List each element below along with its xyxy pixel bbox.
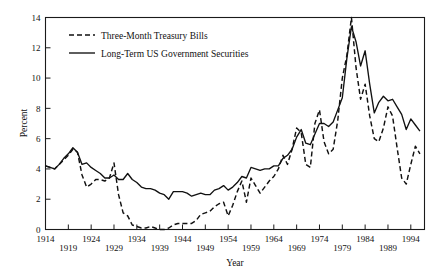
x-tick-label: 1959 [242,243,261,253]
x-tick-label: 1929 [105,243,124,253]
x-tick-label: 1989 [379,243,398,253]
x-axis-ticks [46,225,411,230]
x-tick-label: 1914 [37,234,56,244]
x-tick-label: 1984 [356,234,375,244]
y-axis-ticks [46,18,51,230]
y-tick-label: 10 [32,73,42,83]
x-tick-label: 1944 [173,234,192,244]
x-tick-label: 1949 [196,243,215,253]
x-tick-label: 1979 [333,243,352,253]
y-axis-title: Percent [19,108,29,137]
x-tick-label: 1934 [128,234,147,244]
y-tick-label: 12 [32,43,41,53]
x-axis-title: Year [226,258,244,268]
legend-label-tbills: Three-Month Treasury Bills [101,31,208,41]
y-axis-tick-labels: 02468101214 [32,13,42,235]
x-tick-label: 1974 [310,234,329,244]
y-tick-label: 6 [36,134,41,144]
y-tick-label: 14 [32,13,42,23]
x-tick-label: 1969 [288,243,307,253]
y-tick-label: 4 [36,164,41,174]
chart-legend: Three-Month Treasury Bills Long-Term US … [69,31,249,59]
x-tick-label: 1924 [82,234,101,244]
x-tick-label: 1994 [402,234,421,244]
y-tick-label: 2 [36,194,41,204]
interest-rates-line-chart: 02468101214 1914191919241929193419391944… [0,0,436,276]
chart-figure: 02468101214 1914191919241929193419391944… [0,0,436,276]
x-tick-label: 1964 [265,234,284,244]
x-tick-label: 1954 [219,234,238,244]
y-tick-label: 8 [36,104,41,114]
x-tick-label: 1939 [151,243,170,253]
legend-label-longterm: Long-Term US Government Securities [101,49,249,59]
x-tick-label: 1919 [59,243,78,253]
x-axis-tick-labels: 1914191919241929193419391944194919541959… [37,234,421,253]
